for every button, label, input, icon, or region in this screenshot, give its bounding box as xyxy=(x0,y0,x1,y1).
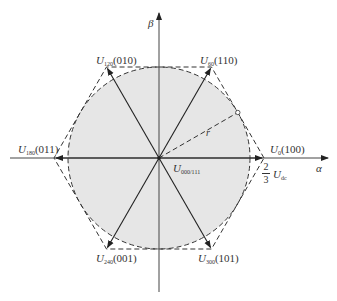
magnitude-udc-label: Udc xyxy=(273,169,287,181)
vector-u60-label: U60(110) xyxy=(200,55,237,67)
origin-point xyxy=(157,156,161,160)
magnitude-fraction: 2 3 xyxy=(262,162,270,185)
vector-u0-label: U0(100) xyxy=(270,144,305,156)
vector-u300-label: U300(101) xyxy=(198,253,239,265)
beta-axis-label: β xyxy=(148,18,153,29)
zero-vector-label: U000/111 xyxy=(173,163,200,175)
radius-label: r xyxy=(206,128,210,138)
vector-u240-label: U240(001) xyxy=(96,253,137,265)
vector-u180-label: U180(011) xyxy=(18,144,58,156)
vector-u120-label: U120(010) xyxy=(96,55,137,67)
alpha-axis-label: α xyxy=(316,163,322,174)
tangent-point-marker xyxy=(236,110,240,114)
